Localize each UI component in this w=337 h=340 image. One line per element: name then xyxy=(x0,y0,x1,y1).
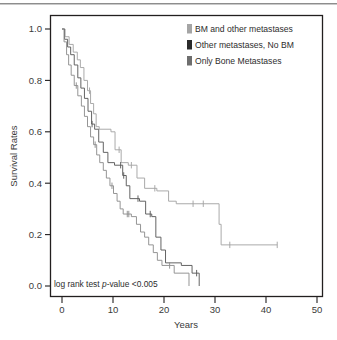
legend-swatch xyxy=(187,24,192,34)
y-tick-label: 0.2 xyxy=(29,229,42,240)
annotation-text-before: log rank test xyxy=(54,279,102,289)
x-axis-title: Years xyxy=(174,319,198,330)
y-tick-label: 0.6 xyxy=(29,126,42,137)
survival-curves-group xyxy=(62,29,277,286)
y-axis-title: Survival Rates xyxy=(8,125,19,186)
log-rank-annotation: log rank test p-value <0.005 xyxy=(54,279,158,289)
chart-legend: BM and other metastasesOther metastases,… xyxy=(187,24,294,66)
y-axis-tick-labels: 0.00.20.40.60.81.0 xyxy=(29,23,42,291)
x-tick-label: 20 xyxy=(159,304,170,315)
x-tick-label: 50 xyxy=(312,304,323,315)
x-tick-label: 40 xyxy=(261,304,272,315)
kaplan-meier-plot: 0.00.20.40.60.81.0 01020304050 Survival … xyxy=(0,0,337,340)
censor-marks-group xyxy=(76,82,277,276)
annotation-text-after: -value <0.005 xyxy=(107,279,158,289)
legend-swatch xyxy=(187,40,192,50)
y-tick-label: 0.4 xyxy=(29,178,42,189)
x-axis-tick-labels: 01020304050 xyxy=(59,304,322,315)
y-tick-label: 1.0 xyxy=(29,23,42,34)
x-tick-label: 10 xyxy=(108,304,119,315)
survival-curve-figure: 0.00.20.40.60.81.0 01020304050 Survival … xyxy=(0,0,337,340)
y-tick-label: 0.8 xyxy=(29,75,42,86)
legend-label: Other metastases, No BM xyxy=(195,40,294,50)
x-tick-label: 30 xyxy=(210,304,221,315)
y-tick-label: 0.0 xyxy=(29,280,42,291)
legend-swatch xyxy=(187,56,192,66)
x-tick-label: 0 xyxy=(59,304,64,315)
legend-label: Only Bone Metastases xyxy=(195,56,281,66)
plot-frame xyxy=(51,16,323,297)
legend-label: BM and other metastases xyxy=(195,24,293,34)
